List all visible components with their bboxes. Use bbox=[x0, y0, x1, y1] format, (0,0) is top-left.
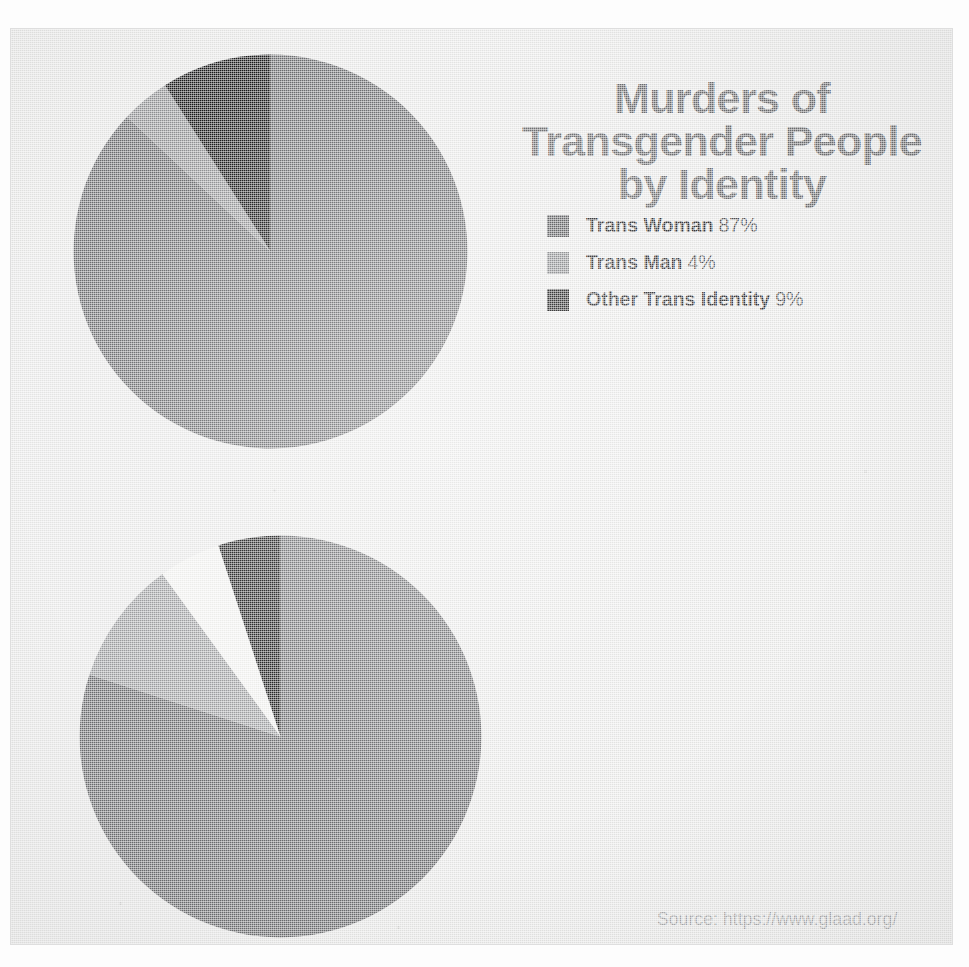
scan-speck bbox=[397, 926, 400, 929]
scan-speck bbox=[119, 902, 122, 905]
infographic-poster: Murders of Transgender People by Identit… bbox=[0, 0, 969, 967]
legend-value-other-trans-identity: 9% bbox=[775, 288, 803, 310]
legend-text-other-trans-identity: Other Trans Identity9% bbox=[586, 288, 803, 311]
legend-label-trans-man: Trans Man bbox=[586, 251, 682, 273]
pie-race-slices bbox=[80, 536, 482, 938]
pie-chart-identity bbox=[72, 53, 469, 450]
poster-canvas: Murders of Transgender People by Identit… bbox=[11, 29, 952, 944]
pie-race-svg bbox=[78, 534, 483, 939]
legend-swatch-other-trans-identity bbox=[547, 289, 569, 311]
legend-value-trans-woman: 87% bbox=[719, 214, 758, 236]
legend-value-trans-man: 4% bbox=[687, 251, 715, 273]
chart-panel-race: Murders of Transgender Women by Race Bla… bbox=[11, 484, 952, 944]
scan-speck bbox=[273, 489, 276, 492]
legend-text-trans-woman: Trans Woman87% bbox=[586, 214, 758, 237]
pie-identity-slices bbox=[74, 55, 468, 449]
chart-title-identity: Murders of Transgender People by Identit… bbox=[507, 77, 937, 206]
legend-item-trans-man: Trans Man4% bbox=[547, 244, 937, 281]
pie-identity-svg bbox=[72, 53, 469, 450]
legend-identity: Trans Woman87% Trans Man4% Other Trans I… bbox=[547, 207, 937, 318]
legend-label-trans-woman: Trans Woman bbox=[586, 214, 714, 236]
source-attribution: Source: https://www.glaad.org/ bbox=[657, 909, 897, 930]
chart-panel-identity: Murders of Transgender People by Identit… bbox=[11, 29, 952, 499]
legend-swatch-trans-woman bbox=[547, 215, 569, 237]
legend-swatch-trans-man bbox=[547, 252, 569, 274]
pie-chart-race bbox=[78, 534, 483, 939]
legend-text-trans-man: Trans Man4% bbox=[586, 251, 716, 274]
scan-speck bbox=[337, 778, 340, 780]
scan-speck bbox=[864, 470, 867, 473]
legend-item-other-trans-identity: Other Trans Identity9% bbox=[547, 281, 937, 318]
legend-item-trans-woman: Trans Woman87% bbox=[547, 207, 937, 244]
legend-label-other-trans-identity: Other Trans Identity bbox=[586, 288, 770, 310]
